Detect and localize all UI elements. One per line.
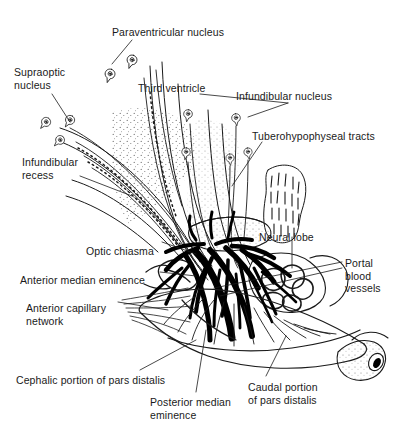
diagram-artwork	[0, 0, 403, 431]
label-infundibular-recess: Infundibularrecess	[22, 156, 78, 181]
leader-posterior-median-eminence	[196, 330, 206, 392]
label-optic-chiasma: Optic chiasma	[86, 245, 154, 258]
hypothalamic-stipple-field	[111, 108, 240, 232]
leader-supraoptic-nucleus	[52, 94, 70, 122]
label-supraoptic-nucleus: Supraopticnucleus	[14, 66, 65, 91]
label-third-ventricle: Third ventricle	[138, 82, 205, 95]
label-anterior-capillary-network: Anterior capillarynetwork	[26, 302, 106, 327]
cut-blood-vessel	[337, 332, 388, 380]
label-tuberohypophyseal-tracts: Tuberohypophyseal tracts	[252, 130, 375, 143]
label-caudal-portion-of-pars-distalis: Caudal portionof pars distalis	[248, 381, 318, 406]
leader-caudal-pars-distalis	[266, 336, 286, 376]
anatomical-figure: Paraventricular nucleusSupraopticnucleus…	[0, 0, 403, 431]
leader-cephalic-pars-distalis	[140, 340, 196, 370]
leader-infundibular-nucleus	[248, 103, 288, 117]
label-paraventricular-nucleus: Paraventricular nucleus	[112, 26, 224, 39]
label-anterior-median-eminence: Anterior median eminence	[20, 274, 145, 287]
label-neural-lobe: Neural lobe	[259, 231, 314, 244]
label-portal-blood-vessels: Portalbloodvessels	[345, 257, 381, 295]
label-cephalic-portion-of-pars-distalis: Cephalic portion of pars distalis	[16, 374, 165, 387]
label-posterior-median-eminence: Posterior medianeminence	[150, 396, 231, 421]
anterior-capillary-network	[122, 288, 192, 342]
label-infundibular-nucleus: Infundibular nucleus	[236, 90, 332, 103]
